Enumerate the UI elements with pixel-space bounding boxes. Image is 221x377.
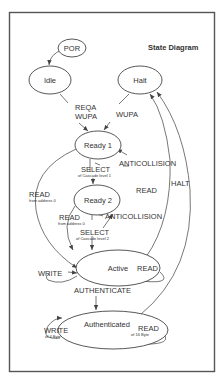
state-ready1-label: Ready 1: [84, 141, 112, 150]
state-diagram: State Diagram POR Idle Halt Ready 1 Read…: [0, 0, 221, 377]
state-authenticated-label: Authenticated: [84, 320, 130, 329]
state-por-label: POR: [64, 44, 81, 53]
label-anticollision-2: ANTICOLLISION: [105, 212, 162, 221]
label-read-1-sub: from address 0: [29, 198, 56, 203]
label-read-2-sub: from address 0: [58, 221, 85, 226]
state-ready2-label: Ready 2: [84, 196, 112, 205]
label-read-auth-sub: of 16 Byte: [131, 332, 150, 337]
state-por: POR: [58, 39, 86, 57]
label-anticollision-1: ANTICOLLISION: [119, 159, 176, 168]
state-ready2: Ready 2: [74, 185, 120, 215]
state-idle: Idle: [29, 66, 71, 94]
state-ready1: Ready 1: [75, 131, 121, 159]
state-idle-label: Idle: [44, 76, 56, 85]
label-authenticate: AUTHENTICATE: [74, 286, 131, 295]
label-reqa: REQA: [75, 103, 96, 112]
state-halt-label: Halt: [133, 76, 147, 85]
label-select-2-sub: of Cascade level 2: [76, 236, 110, 241]
label-wupa-left: WUPA: [75, 112, 97, 121]
label-write-auth-sub: of 4 Byte: [45, 334, 62, 339]
label-read-active: READ: [137, 264, 158, 273]
state-halt: Halt: [118, 66, 162, 94]
label-select-1-sub: of Cascade level 1: [78, 173, 112, 178]
label-halt: HALT: [171, 179, 190, 188]
label-wupa-right: WUPA: [116, 110, 138, 119]
diagram-title: State Diagram: [148, 43, 199, 52]
label-write-active: WRITE: [38, 269, 62, 278]
state-active-label: Active: [108, 264, 128, 273]
label-read-right: READ: [136, 186, 157, 195]
